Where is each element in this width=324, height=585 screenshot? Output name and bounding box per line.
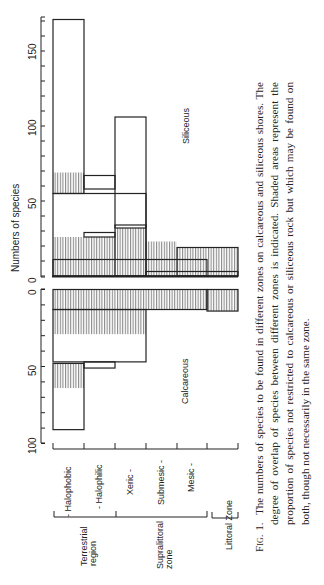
calcareous-tick-50: 50 xyxy=(27,365,38,376)
group-label-supralittoral-line2: zone xyxy=(165,521,174,569)
caption-label: Fig. 1. xyxy=(253,522,265,552)
shaded-block xyxy=(53,363,84,388)
shaded-block xyxy=(53,310,146,335)
siliceous-tick-100: 100 xyxy=(27,119,38,136)
shaded-block xyxy=(115,228,146,260)
shaded-block xyxy=(146,242,177,272)
group-label-supralittoral: Supralittoral zone xyxy=(156,521,174,569)
siliceous-tick-0: 0 xyxy=(27,277,38,283)
bar-block xyxy=(115,225,146,228)
calcareous-y-axis xyxy=(41,289,45,444)
caption-text: The numbers of species to be found in di… xyxy=(253,82,311,525)
calcareous-tick-0: 0 xyxy=(27,289,38,295)
shaded-block xyxy=(53,173,84,194)
figure-caption: Fig. 1. The numbers of species to be fou… xyxy=(252,82,313,552)
siliceous-tick-150: 150 xyxy=(27,43,38,60)
zone-group-brackets xyxy=(54,511,238,518)
bar-block xyxy=(84,233,115,238)
siliceous-tick-50: 50 xyxy=(27,198,38,209)
siliceous-y-axis xyxy=(41,17,45,277)
zone-label-halophobic: - Halophobic xyxy=(63,466,73,517)
group-label-terrestrial-line2: region xyxy=(89,526,98,566)
zone-label-submesic: Submesic - xyxy=(156,460,166,505)
siliceous-bars xyxy=(53,20,238,277)
siliceous-panel-label: Siliceous xyxy=(181,108,191,144)
group-label-littoral: Littoral Zone xyxy=(224,500,234,550)
shaded-block xyxy=(53,290,207,310)
bar-block xyxy=(84,176,115,190)
y-axis-label: Numbers of species xyxy=(10,184,21,272)
bar-block xyxy=(84,362,115,368)
calcareous-panel-label: Calcareous xyxy=(180,358,190,404)
calcareous-bars xyxy=(53,290,238,430)
zone-axis xyxy=(53,443,238,449)
group-label-terrestrial: Terrestrial region xyxy=(80,526,98,566)
calcareous-tick-100: 100 xyxy=(27,437,38,454)
zone-label-mesic: Mesic - xyxy=(186,463,196,492)
bar-block xyxy=(53,20,84,194)
zone-label-halophilic: - Halophilic xyxy=(94,464,104,509)
shaded-block xyxy=(207,290,238,312)
zone-label-xeric: Xeric - xyxy=(125,469,135,495)
